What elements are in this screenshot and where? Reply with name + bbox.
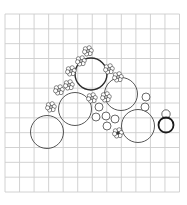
small-plant-circle [92, 113, 100, 121]
flower-petal [117, 76, 120, 79]
flower-clusters [46, 46, 124, 138]
flower-cluster-icon [83, 46, 94, 56]
shrub-bottom-left-circle [31, 116, 64, 149]
flower-petal [70, 70, 73, 73]
flower-petal [113, 76, 117, 80]
small-plant-circle [111, 115, 119, 123]
flower-cluster-icon [76, 56, 87, 66]
grid [5, 14, 180, 192]
flower-petal [108, 68, 111, 71]
flower-cluster-icon [54, 85, 65, 95]
flower-petal [91, 97, 94, 100]
flower-petal [68, 84, 71, 87]
flower-petal [58, 89, 61, 92]
flower-petal [104, 68, 108, 72]
flower-petal [87, 50, 90, 53]
flower-petal [83, 50, 87, 54]
flower-petal [46, 106, 50, 110]
planting-plan-diagram [0, 0, 187, 205]
flower-petal [101, 96, 105, 100]
small-plant-circle [141, 103, 149, 111]
shrub-right-lower-circle [122, 110, 155, 143]
bold-plant-circles [159, 118, 174, 133]
flower-petal [113, 132, 117, 136]
flower-petal [50, 106, 53, 109]
flower-cluster-icon [87, 93, 98, 103]
flower-petal [87, 97, 91, 101]
flower-petal [64, 84, 68, 88]
flower-petal [76, 60, 80, 64]
plan-drawing [0, 0, 187, 205]
small-plant-circle [103, 122, 111, 130]
flower-petal [80, 60, 83, 63]
flower-petal [105, 96, 108, 99]
flower-petal [117, 132, 120, 135]
flower-petal [66, 70, 70, 74]
bold-plant-circle [159, 118, 174, 133]
flower-petal [54, 89, 58, 93]
small-plant-circle [142, 93, 150, 101]
flower-cluster-icon [101, 92, 112, 102]
small-plant-circle [95, 103, 103, 111]
flower-cluster-icon [66, 66, 77, 76]
small-plant-circle [102, 112, 110, 120]
flower-cluster-icon [104, 64, 115, 74]
